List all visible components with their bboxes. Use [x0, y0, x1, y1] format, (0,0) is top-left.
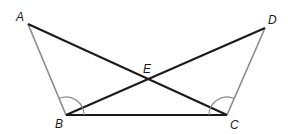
segment-ab — [28, 24, 66, 115]
diagram-svg: A B C D E — [0, 0, 292, 134]
geometry-diagram: A B C D E — [0, 0, 292, 134]
label-c: C — [230, 118, 239, 132]
label-b: B — [55, 117, 63, 131]
segment-ac — [28, 24, 227, 115]
label-a: A — [15, 10, 24, 24]
label-d: D — [268, 13, 277, 27]
label-e: E — [143, 62, 152, 76]
segment-bd — [66, 28, 265, 115]
